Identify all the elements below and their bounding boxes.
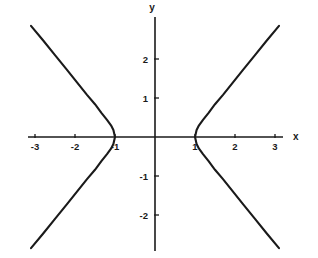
y-tick-label: 1	[143, 93, 149, 104]
y-tick-label: -1	[140, 171, 149, 182]
x-tick-label: 3	[272, 141, 277, 152]
y-axis-label: y	[149, 2, 155, 13]
x-axis-label: x	[293, 131, 299, 142]
y-tick-label: -2	[140, 210, 148, 221]
y-tick-label: 2	[143, 54, 148, 65]
x-tick-label: -3	[31, 141, 39, 152]
chart-background	[0, 0, 318, 258]
x-tick-label: 1	[192, 141, 198, 152]
x-tick-label: 2	[232, 141, 237, 152]
x-tick-label: -1	[111, 141, 120, 152]
x-tick-label: -2	[71, 141, 79, 152]
hyperbola-chart: -3-2-112321-1-2 x y	[0, 0, 318, 258]
plot-screen: -3-2-112321-1-2 x y	[0, 0, 318, 258]
